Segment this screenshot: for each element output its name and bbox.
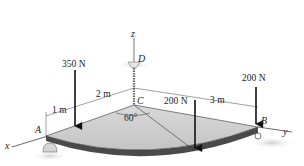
- point-b-label: B: [261, 115, 267, 126]
- force-200-b-label: 200 N: [242, 73, 266, 83]
- axis-z-label: z: [130, 28, 135, 39]
- force-350-label: 350 N: [62, 59, 86, 69]
- shadow-a: [32, 151, 68, 161]
- plate-diagram: 60° z D C 1 m 2 m 3 m 350 N 200 N 200 N …: [0, 0, 304, 166]
- point-c-label: C: [137, 95, 144, 106]
- dim-line-y: [134, 88, 258, 107]
- force-200-mid-label: 200 N: [164, 96, 188, 106]
- angle-label: 60°: [124, 113, 138, 123]
- point-a-label: A: [34, 124, 42, 135]
- dim-3m: 3 m: [210, 95, 225, 105]
- x-axis: [12, 136, 48, 147]
- support-a: [43, 143, 57, 152]
- shadow-b: [248, 137, 296, 149]
- axis-x-label: x: [4, 140, 10, 151]
- support-b: [255, 133, 261, 139]
- axis-y-label: y: [282, 126, 288, 137]
- dim-2m: 2 m: [96, 89, 111, 99]
- point-d-label: D: [137, 53, 146, 64]
- dim-1m: 1 m: [52, 105, 67, 115]
